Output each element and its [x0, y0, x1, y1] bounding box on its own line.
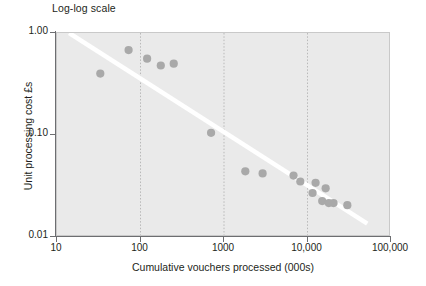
y-axis-title: Unit processing cost £s — [22, 46, 34, 226]
plot-svg — [57, 33, 390, 236]
trendline-group — [69, 33, 367, 224]
chart-container: Log-log scale 1.000.100.01 10100100010,0… — [0, 0, 426, 286]
trend-line — [69, 33, 367, 224]
data-point — [124, 46, 132, 54]
data-point — [157, 61, 165, 69]
data-point — [296, 177, 304, 185]
chart-title: Log-log scale — [52, 2, 116, 14]
x-tick-label: 100 — [131, 242, 148, 253]
x-tick-label: 10,000 — [291, 242, 322, 253]
data-point — [259, 169, 267, 177]
data-point — [311, 179, 319, 187]
y-tick-label: 0.01 — [29, 229, 48, 240]
data-point — [170, 60, 178, 68]
data-point — [143, 55, 151, 63]
x-axis-title: Cumulative vouchers processed (000s) — [56, 261, 390, 273]
data-point — [289, 171, 297, 179]
data-point — [308, 189, 316, 197]
x-tick-label: 10 — [50, 242, 61, 253]
y-tick-mark — [50, 134, 56, 135]
data-point — [207, 129, 215, 137]
data-point — [329, 199, 337, 207]
data-point — [343, 201, 351, 209]
data-point — [96, 69, 104, 77]
x-tick-label: 1000 — [212, 242, 234, 253]
plot-area — [56, 32, 390, 236]
y-tick-mark — [50, 32, 56, 33]
data-point — [322, 184, 330, 192]
y-tick-label: 1.00 — [29, 25, 48, 36]
data-point — [241, 167, 249, 175]
x-tick-label: 100,000 — [372, 242, 408, 253]
